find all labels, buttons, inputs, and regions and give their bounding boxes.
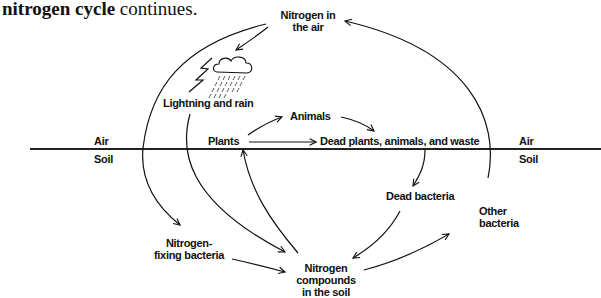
arrow-compounds-to-other-bacteria: [364, 234, 449, 270]
label-soil-right: Soil: [519, 153, 538, 165]
cloud-icon: [213, 57, 251, 73]
node-label-line: in the soil: [291, 286, 361, 298]
arrow-plants-to-animals: [248, 117, 282, 135]
node-label-line: the air: [268, 21, 348, 33]
arrow-air-to-lightning: [236, 27, 268, 50]
node-label-line: Other: [479, 205, 519, 217]
node-dead-plants-animals-waste: Dead plants, animals, and waste: [320, 135, 479, 147]
lightning-bolt-icon: [189, 58, 212, 92]
node-nitrogen-fixing-bacteria: Nitrogen- fixing bacteria: [148, 237, 230, 261]
nitrogen-cycle-diagram: [0, 0, 601, 298]
node-dead-bacteria: Dead bacteria: [386, 190, 454, 202]
node-lightning-and-rain: Lightning and rain: [163, 97, 254, 109]
node-nitrogen-compounds-soil: Nitrogen compounds in the soil: [291, 262, 361, 298]
node-plants: Plants: [208, 135, 239, 147]
arrow-dead-bacteria-to-compounds: [353, 211, 400, 258]
label-soil-left: Soil: [94, 153, 113, 165]
node-label-line: Nitrogen: [291, 262, 361, 274]
node-nitrogen-in-air: Nitrogen in the air: [268, 9, 348, 33]
arrow-animals-to-dead: [341, 117, 374, 131]
node-label-line: fixing bacteria: [148, 249, 230, 261]
arrow-other-bacteria-to-air: [345, 21, 490, 178]
rain-icon: [209, 76, 245, 98]
arrow-dead-to-dead-bacteria: [413, 150, 425, 186]
label-air-right: Air: [519, 135, 533, 147]
node-other-bacteria: Other bacteria: [479, 205, 519, 229]
arrow-fixing-to-compounds: [232, 259, 285, 272]
node-label-line: compounds: [291, 274, 361, 286]
node-animals: Animals: [290, 110, 331, 122]
node-label-line: bacteria: [479, 217, 519, 229]
arrow-compounds-to-plants: [243, 150, 298, 253]
node-label-line: Nitrogen-: [148, 237, 230, 249]
arrow-air-to-fixing-bacteria: [143, 24, 266, 225]
label-air-left: Air: [94, 135, 108, 147]
node-label-line: Nitrogen in: [268, 9, 348, 21]
